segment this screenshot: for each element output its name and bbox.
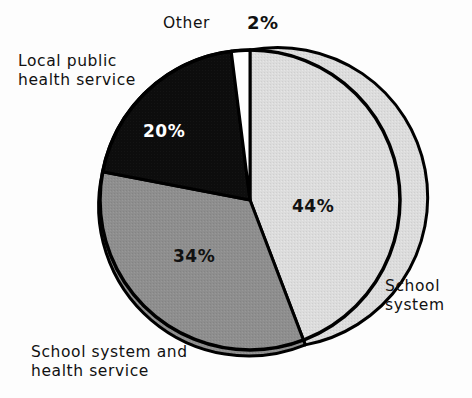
slice-callout-other: Other — [163, 14, 210, 33]
slice-value-school-system-and-health-service: 34% — [173, 246, 215, 266]
slice-value-local-public-health-service: 20% — [143, 121, 185, 141]
slice-callout-school-system: School system — [385, 277, 445, 315]
pie-chart-figure: Other 2% Local public health service Sch… — [0, 0, 472, 398]
slice-callout-school-system-and-health-service: School system and health service — [31, 343, 188, 381]
slice-value-school-system: 44% — [292, 196, 334, 216]
slice-value-other: 2% — [247, 12, 279, 33]
slice-callout-local-public-health-service: Local public health service — [18, 52, 136, 90]
